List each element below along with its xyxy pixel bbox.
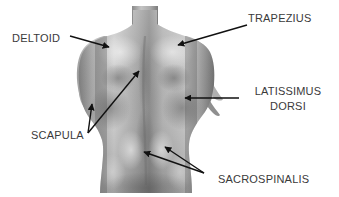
- body-illustration: [70, 0, 270, 197]
- anatomy-figure: [0, 0, 339, 197]
- label-trapezius: TRAPEZIUS: [248, 12, 312, 25]
- label-scapula: SCAPULA: [31, 129, 84, 142]
- label-deltoid: DELTOID: [12, 32, 60, 45]
- label-sacrospinalis: SACROSPINALIS: [218, 173, 309, 186]
- leader-trapezius: [178, 25, 247, 45]
- diagram-canvas: DELTOID TRAPEZIUS LATISSIMUS DORSI SCAPU…: [0, 0, 339, 197]
- label-latissimus-dorsi-line1: LATISSIMUS: [242, 85, 334, 98]
- label-latissimus-dorsi-line2: DORSI: [242, 100, 334, 113]
